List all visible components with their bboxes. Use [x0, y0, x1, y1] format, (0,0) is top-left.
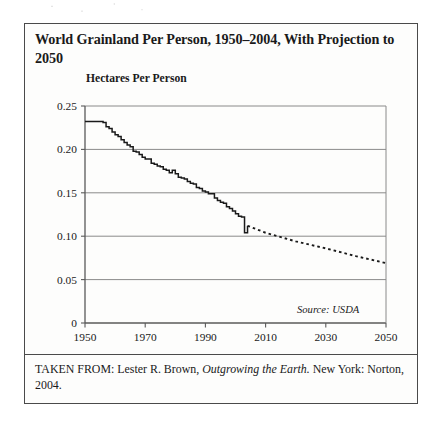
x-axis-tick-label: 1990: [194, 331, 217, 343]
y-axis-tick-label: 0.05: [57, 274, 77, 286]
x-axis-tick-label: 2030: [314, 331, 337, 343]
paper-speckle-artifact: [40, 0, 160, 16]
figure-caption: TAKEN FROM: Lester R. Brown, Outgrowing …: [35, 362, 405, 394]
caption-book-title: Outgrowing the Earth.: [202, 362, 310, 376]
y-axis-tick-label: 0: [71, 317, 77, 329]
series-line-historical: [85, 122, 248, 233]
y-axis-tick-label: 0.25: [57, 100, 77, 112]
source-note: Source: USDA: [297, 304, 359, 315]
x-axis-tick-label: 1970: [134, 331, 157, 343]
figure-frame: World Grainland Per Person, 1950–2004, W…: [24, 23, 418, 404]
gridlines-group: [85, 106, 386, 280]
line-chart-svg: 00.050.100.150.200.25 195019701990201020…: [25, 24, 419, 405]
x-axis-tick-label: 1950: [74, 331, 97, 343]
x-axis-tick-label: 2050: [375, 331, 398, 343]
y-axis-tick-label: 0.10: [57, 230, 77, 242]
series-line-projection: [248, 226, 386, 263]
x-axis-tick-label: 2010: [254, 331, 277, 343]
y-axis-labels-group: 00.050.100.150.200.25: [57, 100, 77, 329]
caption-divider: [25, 354, 417, 355]
y-axis-tick-label: 0.20: [57, 143, 77, 155]
x-axis-ticks-group: [85, 323, 386, 328]
x-axis-labels-group: 195019701990201020302050: [74, 331, 398, 343]
chart-plot-area: 00.050.100.150.200.25 195019701990201020…: [25, 24, 419, 405]
caption-prefix: TAKEN FROM: Lester R. Brown,: [35, 362, 202, 376]
y-axis-tick-label: 0.15: [57, 187, 77, 199]
